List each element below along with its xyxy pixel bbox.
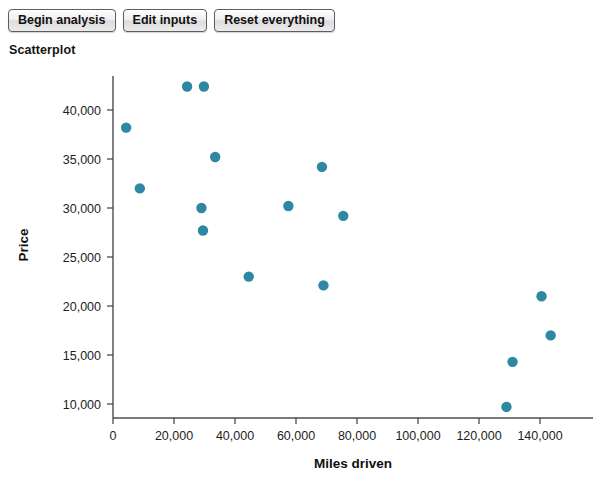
data-point [317,162,327,172]
y-tick-label: 20,000 [63,300,101,314]
x-tick-label: 0 [110,429,117,443]
data-point [338,211,348,221]
data-point [210,152,220,162]
x-tick-label: 120,000 [456,429,501,443]
y-tick-label: 15,000 [63,349,101,363]
data-point [318,280,328,290]
data-point [121,122,131,132]
data-point [283,201,293,211]
data-point [182,81,192,91]
data-points [121,81,556,412]
y-tick-label: 10,000 [63,398,101,412]
y-tick-label: 25,000 [63,251,101,265]
y-axis-title: Price [16,228,31,262]
scatterplot-figure: 10,00015,00020,00025,00030,00035,00040,0… [0,0,612,484]
x-tick-label: 140,000 [517,429,562,443]
data-point [135,183,145,193]
x-tick-label: 80,000 [338,429,376,443]
data-point [196,203,206,213]
y-tick-label: 30,000 [63,202,101,216]
y-tick-label: 35,000 [63,153,101,167]
y-axis-ticks: 10,00015,00020,00025,00030,00035,00040,0… [63,104,113,412]
x-axis-ticks: 020,00040,00060,00080,000100,000120,0001… [110,418,563,443]
x-tick-label: 100,000 [395,429,440,443]
x-axis-title: Miles driven [314,456,392,471]
y-tick-label: 40,000 [63,104,101,118]
data-point [507,357,517,367]
x-tick-label: 40,000 [216,429,254,443]
data-point [536,291,546,301]
x-tick-label: 60,000 [277,429,315,443]
data-point [244,271,254,281]
data-point [198,225,208,235]
data-point [199,81,209,91]
data-point [501,402,511,412]
x-tick-label: 20,000 [155,429,193,443]
data-point [545,330,555,340]
